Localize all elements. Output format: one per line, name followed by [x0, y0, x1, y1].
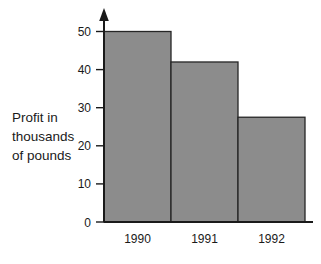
- y-axis-title-line-1: Profit in: [12, 110, 58, 125]
- x-tick-label-1991: 1991: [191, 232, 218, 246]
- y-tick-label-20: 20: [78, 139, 92, 153]
- x-tick-labels: 1990 1991 1992: [124, 232, 285, 246]
- x-tick-label-1990: 1990: [124, 232, 151, 246]
- y-axis-title-line-3: of pounds: [12, 148, 72, 163]
- bar-1990: [104, 32, 171, 223]
- y-tick-label-10: 10: [78, 177, 92, 191]
- bar-1991: [171, 62, 238, 222]
- bar-chart: 0 10 20 30 40 50 1990 1991 1992 Profit i…: [0, 0, 321, 264]
- y-tick-label-0: 0: [84, 216, 91, 230]
- y-tick-label-50: 50: [78, 25, 92, 39]
- y-axis-title-line-2: thousands: [12, 129, 75, 144]
- x-tick-label-1992: 1992: [258, 232, 285, 246]
- bar-1992: [238, 117, 305, 222]
- chart-canvas: 0 10 20 30 40 50 1990 1991 1992 Profit i…: [0, 0, 321, 264]
- y-tick-label-30: 30: [78, 101, 92, 115]
- y-tick-label-40: 40: [78, 63, 92, 77]
